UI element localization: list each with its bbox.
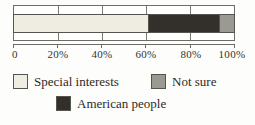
legend-label-not-sure: Not sure [172,74,216,89]
legend-row-1: Special interests Not sure [0,74,255,96]
stacked-bar [13,14,235,33]
legend-label-special-interests: Special interests [34,74,119,89]
legend-row-2: American people [0,96,255,118]
x-tick-label-60: 60% [135,48,156,60]
x-tick-label-80: 80% [180,48,201,60]
legend-item-not-sure: Not sure [151,74,216,89]
legend-swatch-american-people [56,96,71,111]
legend-swatch-not-sure [151,74,166,89]
bar-segment-not-sure [219,15,234,32]
bar-segment-special-interests [14,15,148,32]
x-axis-line [13,44,235,45]
legend-item-american-people: American people [56,96,166,111]
x-tick-label-20: 20% [47,48,68,60]
chart-legend: Special interests Not sure American peop… [0,74,255,118]
x-tick-label-100: 100% [219,48,246,60]
stacked-bar-chart: 0 20% 40% 60% 80% 100% Special interests… [0,0,255,125]
bar-segment-american-people [148,15,218,32]
legend-label-american-people: American people [77,96,166,111]
x-tick-label-0: 0 [12,48,18,60]
x-tick-label-40: 40% [91,48,112,60]
legend-item-special-interests: Special interests [13,74,119,89]
legend-swatch-special-interests [13,74,28,89]
